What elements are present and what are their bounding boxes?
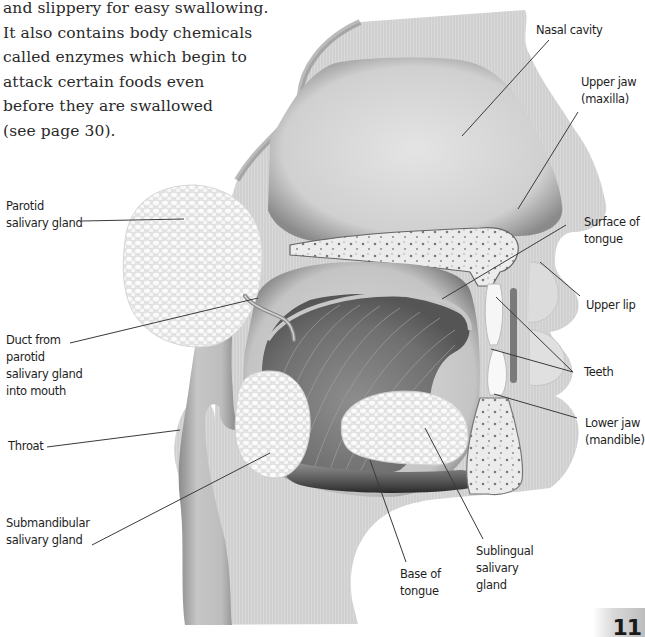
label-submandibular-gland: Submandibular salivary gland [6, 515, 90, 549]
label-line: into mouth [6, 383, 82, 400]
tooth-root [510, 288, 517, 383]
label-upper-jaw: Upper jaw (maxilla) [581, 74, 636, 108]
label-lower-jaw: Lower jaw (mandible) [585, 415, 645, 449]
label-line: tongue [584, 231, 640, 248]
label-surface-of-tongue: Surface of tongue [584, 214, 640, 248]
lower-tooth [488, 350, 507, 395]
label-teeth: Teeth [584, 364, 614, 381]
label-line: Sublingual [476, 543, 533, 560]
anatomy-diagram [0, 0, 645, 637]
page-number: 11 [612, 615, 641, 637]
page-number-tab: 11 [593, 608, 645, 637]
sublingual-gland [341, 391, 468, 465]
label-line: salivary [476, 560, 533, 577]
label-line: parotid [6, 349, 82, 366]
label-line: (mandible) [585, 432, 645, 449]
label-line: Lower jaw [585, 415, 645, 432]
label-sublingual-gland: Sublingual salivary gland [476, 543, 533, 594]
upper-tooth [485, 284, 502, 345]
label-line: tongue [400, 583, 441, 600]
label-parotid-gland: Parotid salivary gland [6, 198, 82, 232]
submandibular-gland [235, 371, 310, 478]
label-line: Parotid [6, 198, 82, 215]
label-line: Upper jaw [581, 74, 636, 91]
label-line: Base of [400, 566, 441, 583]
label-parotid-duct: Duct from parotid salivary gland into mo… [6, 332, 82, 400]
label-line: Duct from [6, 332, 82, 349]
label-line: Surface of [584, 214, 640, 231]
label-nasal-cavity: Nasal cavity [536, 22, 603, 39]
parotid-gland [123, 185, 262, 347]
label-line: salivary gland [6, 366, 82, 383]
label-line: salivary gland [6, 215, 82, 232]
label-base-of-tongue: Base of tongue [400, 566, 441, 600]
label-line: gland [476, 577, 533, 594]
label-throat: Throat [8, 438, 44, 455]
label-upper-lip: Upper lip [586, 297, 635, 314]
label-line: (maxilla) [581, 91, 636, 108]
label-line: Submandibular [6, 515, 90, 532]
label-line: salivary gland [6, 532, 90, 549]
